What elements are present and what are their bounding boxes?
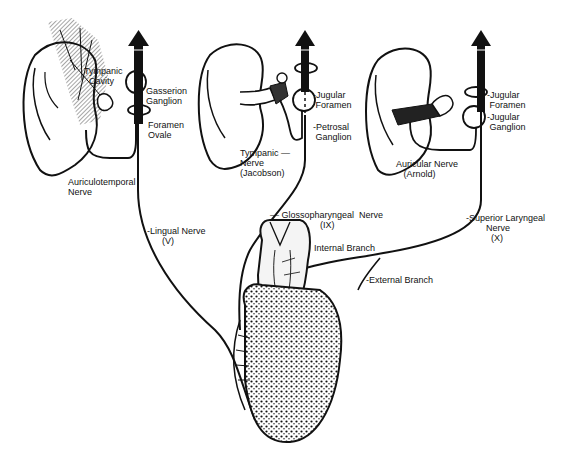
tympanic-cavity-shape-1 [98, 94, 113, 111]
label-jugular-foramen-ix: -Jugular Foramen [313, 90, 352, 110]
label-auricular-nerve: Auricular Nerve (Arnold) [396, 159, 458, 179]
label-tympanic-nerve: Tympanic — Nerve (Jacobson) [240, 148, 290, 178]
arrow-up-icon [471, 30, 491, 46]
label-external-branch: -External Branch [366, 275, 433, 285]
label-foramen-ovale: Foramen Ovale [148, 120, 184, 140]
nerve-diagram: Tympanic Cavity Gasserion Ganglion Foram… [0, 0, 561, 458]
tongue-icon [244, 284, 342, 442]
label-gasserion-ganglion: Gasserion Ganglion [146, 86, 187, 106]
label-tympanic-cavity: Tympanic Cavity [84, 66, 123, 86]
nerve-trunk-ix [301, 44, 309, 92]
label-lingual-nerve: -Lingual Nerve (V) [147, 226, 206, 246]
label-jugular-foramen-x: -Jugular Foramen [487, 90, 526, 110]
label-internal-branch: Internal Branch [314, 243, 375, 253]
label-petrosal-ganglion: -Petrosal Ganglion [313, 122, 352, 142]
nerve-trunk-x [477, 44, 485, 112]
lingual-nerve-path [138, 124, 255, 420]
external-branch-path [358, 258, 380, 290]
label-auriculotemporal-nerve: Auriculotemporal Nerve [68, 177, 136, 197]
label-superior-laryngeal-nerve: -Superior Laryngeal Nerve (X) [466, 213, 545, 243]
label-glossopharyngeal-nerve: — Glossopharyngeal Nerve (IX) [270, 210, 383, 230]
nerve-trunk-v [134, 44, 143, 124]
arrow-up-icon [295, 30, 315, 46]
petrosal-ganglion-circle [293, 89, 315, 111]
label-jugular-ganglion: -Jugular Ganglion [487, 112, 526, 132]
arrow-up-icon [128, 30, 149, 46]
